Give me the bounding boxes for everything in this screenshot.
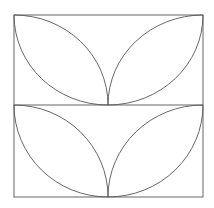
leaf-pattern-figure: Leaf pattern tile (0, 0, 214, 208)
top-right-leaf (108, 15, 203, 105)
top-left-leaf (14, 15, 108, 105)
leaf-pattern-svg (0, 0, 214, 208)
outer-square (14, 15, 203, 197)
bottom-left-leaf (14, 105, 108, 197)
bottom-right-leaf (108, 105, 203, 197)
